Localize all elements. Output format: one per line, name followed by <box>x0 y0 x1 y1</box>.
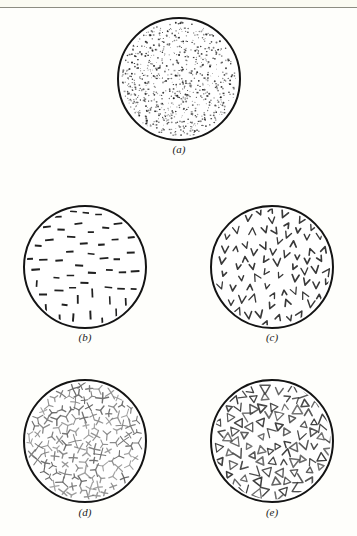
panel-d-label: (d) <box>0 506 170 518</box>
panel-e-label: (e) <box>0 506 357 518</box>
panel-d-circle-outline <box>24 380 146 502</box>
panel-a: (a) <box>0 0 357 536</box>
panel-e-drawing <box>0 0 357 536</box>
panel-b-marks <box>26 211 139 325</box>
panel-e: (e) <box>0 0 357 536</box>
panel-d-marks <box>25 382 142 502</box>
panel-b-circle-outline <box>24 206 146 328</box>
panel-d-drawing <box>0 0 357 536</box>
figure-page: (a)(b)(c)(d)(e) <box>0 0 357 536</box>
panel-d: (d) <box>0 0 357 536</box>
page-top-band <box>0 0 357 7</box>
panel-c-marks <box>217 207 333 327</box>
panel-c-drawing <box>0 0 357 536</box>
panel-b: (b) <box>0 0 357 536</box>
panel-c-label: (c) <box>0 331 357 343</box>
panel-a-circle-outline <box>118 18 240 140</box>
panel-c: (c) <box>0 0 357 536</box>
panel-b-drawing <box>0 0 357 536</box>
panel-b-label: (b) <box>0 331 170 343</box>
panel-e-circle-outline <box>211 380 333 502</box>
panel-c-circle-outline <box>211 206 333 328</box>
panel-e-marks <box>213 381 333 502</box>
panel-a-drawing <box>0 0 357 536</box>
page-top-rule <box>0 7 357 8</box>
panel-a-label: (a) <box>0 143 357 155</box>
panel-a-marks <box>122 21 236 136</box>
